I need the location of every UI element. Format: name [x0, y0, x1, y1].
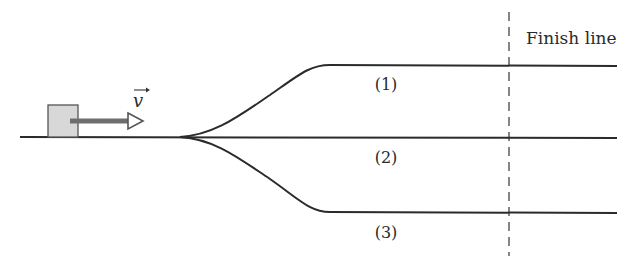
velocity-arrow-icon [70, 113, 143, 129]
track-1 [180, 65, 617, 137]
track-label-1: (1) [375, 75, 398, 94]
track-diagram: Finish line v (1) (2) (3) [0, 0, 635, 266]
track-2 [20, 137, 617, 138]
track-3 [180, 137, 617, 213]
diagram-canvas: Finish line v (1) (2) (3) [0, 0, 635, 266]
velocity-label: v [133, 90, 143, 111]
finish-line-label: Finish line [526, 28, 617, 48]
track-label-3: (3) [375, 223, 398, 242]
track-label-2: (2) [375, 148, 398, 167]
